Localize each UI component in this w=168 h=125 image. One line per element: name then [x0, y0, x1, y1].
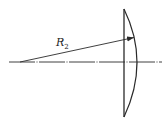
radius-label-subscript: 2 [64, 43, 68, 51]
lens-diagram [0, 0, 168, 125]
lens-curved-face [124, 9, 137, 117]
radius-label: R2 [56, 37, 69, 51]
radius-arrow [20, 38, 134, 63]
